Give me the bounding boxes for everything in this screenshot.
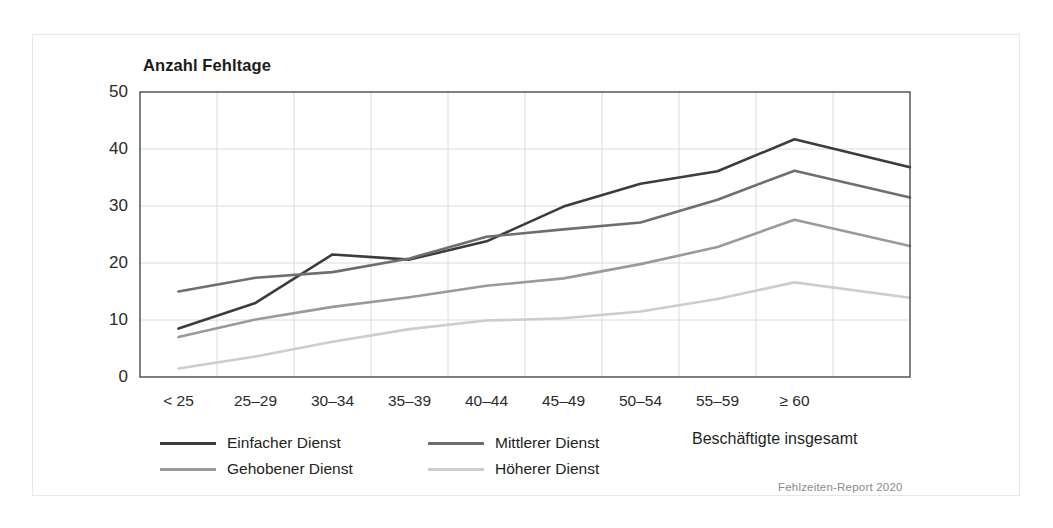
series-lines <box>179 139 911 368</box>
x-axis-tick-label: ≥ 60 <box>756 392 833 410</box>
x-axis-tick-label: 30–34 <box>294 392 371 410</box>
source-note: Fehlzeiten-Report 2020 <box>778 481 903 493</box>
legend-item-mittlerer-dienst[interactable]: Mittlerer Dienst <box>428 434 599 452</box>
y-axis-tick-label: 50 <box>82 83 128 100</box>
x-axis-tick-label: 50–54 <box>602 392 679 410</box>
chart-figure: Anzahl Fehltage 01020304050 < 2525–2930–… <box>0 0 1053 528</box>
x-axis-tick-label: 55–59 <box>679 392 756 410</box>
y-axis-tick-label: 0 <box>82 368 128 385</box>
x-axis-tick-label: 45–49 <box>525 392 602 410</box>
legend-label: Gehobener Dienst <box>227 460 353 478</box>
legend-line-swatch <box>428 442 484 445</box>
legend-label: Einfacher Dienst <box>227 434 341 452</box>
legend-item-einfacher-dienst[interactable]: Einfacher Dienst <box>160 434 428 452</box>
legend-item-gehobener-dienst[interactable]: Gehobener Dienst <box>160 460 428 478</box>
x-axis-tick-label: < 25 <box>140 392 217 410</box>
series-line-h-herer-dienst <box>179 282 911 368</box>
legend-row: Gehobener DienstHöherer Dienst <box>160 456 680 482</box>
x-axis-tick-label: 25–29 <box>217 392 294 410</box>
legend-row: Einfacher DienstMittlerer Dienst <box>160 430 680 456</box>
legend-line-swatch <box>428 468 484 471</box>
y-axis-tick-label: 40 <box>82 140 128 157</box>
y-axis-tick-label: 30 <box>82 197 128 214</box>
series-line-mittlerer-dienst <box>179 171 911 292</box>
y-axis-tick-label: 10 <box>82 311 128 328</box>
legend-label: Mittlerer Dienst <box>495 434 599 452</box>
chart-legend: Einfacher DienstMittlerer DienstGehobene… <box>160 430 680 482</box>
gridlines <box>140 92 910 377</box>
total-category-label: Beschäftigte insgesamt <box>692 430 857 448</box>
legend-line-swatch <box>160 442 216 445</box>
legend-line-swatch <box>160 468 216 471</box>
legend-label: Höherer Dienst <box>495 460 599 478</box>
x-axis-tick-label: 40–44 <box>448 392 525 410</box>
y-axis-tick-label: 20 <box>82 254 128 271</box>
series-line-einfacher-dienst <box>179 139 911 328</box>
x-axis-tick-label: 35–39 <box>371 392 448 410</box>
legend-item-h-herer-dienst[interactable]: Höherer Dienst <box>428 460 599 478</box>
